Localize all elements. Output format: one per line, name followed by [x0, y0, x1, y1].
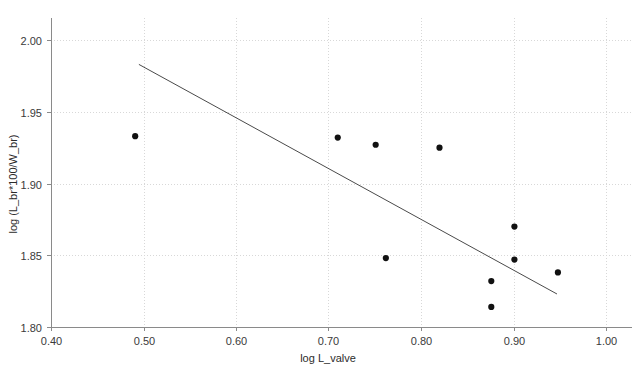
data-point — [511, 223, 517, 229]
scatter-plot-figure: 0.400.500.600.700.800.901.00 1.801.851.9… — [0, 0, 637, 373]
plot-background — [0, 0, 637, 373]
x-tick-label: 0.60 — [226, 335, 247, 347]
y-axis-title: log (L_br*100/W_br) — [7, 134, 19, 233]
data-point — [555, 269, 561, 275]
data-point — [373, 142, 379, 148]
chart-canvas: 0.400.500.600.700.800.901.00 1.801.851.9… — [0, 0, 637, 373]
data-point — [436, 145, 442, 151]
x-tick-label: 1.00 — [596, 335, 617, 347]
x-tick-label: 0.70 — [318, 335, 339, 347]
y-tick-label: 2.00 — [21, 35, 42, 47]
x-axis-title: log L_valve — [300, 352, 356, 364]
y-tick-label: 1.95 — [21, 107, 42, 119]
data-point — [488, 278, 494, 284]
x-tick-label: 0.50 — [134, 335, 155, 347]
x-tick-label: 0.90 — [504, 335, 525, 347]
x-tick-label: 0.40 — [41, 335, 62, 347]
x-tick-label: 0.80 — [411, 335, 432, 347]
data-point — [335, 134, 341, 140]
data-point — [132, 133, 138, 139]
y-tick-label: 1.90 — [21, 179, 42, 191]
data-point — [488, 304, 494, 310]
data-point — [511, 256, 517, 262]
y-tick-label: 1.80 — [21, 322, 42, 334]
data-point — [383, 255, 389, 261]
y-tick-label: 1.85 — [21, 250, 42, 262]
